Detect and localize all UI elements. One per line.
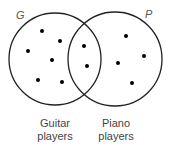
caption-piano-line1: Piano bbox=[86, 117, 146, 130]
set-label-p: P bbox=[145, 8, 153, 20]
circle-guitar bbox=[9, 13, 101, 105]
dots-only-piano bbox=[116, 34, 146, 85]
caption-piano-line2: players bbox=[86, 130, 146, 143]
caption-guitar-line2: players bbox=[25, 130, 85, 143]
caption-guitar: Guitar players bbox=[25, 117, 85, 143]
caption-guitar-line1: Guitar bbox=[25, 117, 85, 130]
set-label-g: G bbox=[16, 9, 25, 21]
circle-piano bbox=[68, 12, 162, 106]
dots-both bbox=[82, 44, 89, 68]
dots-only-guitar bbox=[26, 29, 64, 84]
caption-piano: Piano players bbox=[86, 117, 146, 143]
